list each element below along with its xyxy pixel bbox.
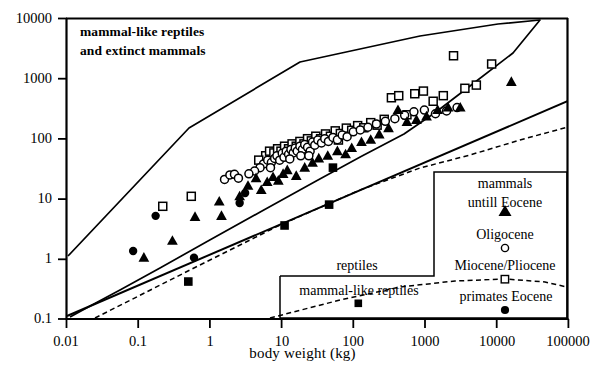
data-point-open-square bbox=[461, 84, 469, 92]
data-point-open-circle bbox=[391, 115, 399, 123]
data-point-filled-square bbox=[184, 277, 193, 286]
data-point-filled-triangle bbox=[190, 211, 201, 221]
data-point-filled-triangle bbox=[313, 153, 324, 163]
data-point-open-circle bbox=[286, 155, 294, 163]
data-point-filled-circle bbox=[190, 253, 198, 261]
legend-label-mammals: mammals bbox=[440, 176, 570, 192]
data-point-filled-triangle bbox=[356, 136, 367, 146]
data-point-filled-triangle bbox=[346, 142, 357, 152]
data-point-filled-triangle bbox=[374, 129, 385, 139]
data-point-open-square bbox=[439, 92, 447, 100]
data-point-filled-triangle bbox=[216, 210, 227, 220]
legend-label-miocene-pliocene: Miocene/Pliocene bbox=[425, 258, 585, 274]
data-point-open-circle bbox=[245, 170, 253, 178]
y-ticklabel-1: 1 bbox=[0, 250, 52, 267]
legend-label-until-eocene: untill Eocene bbox=[430, 195, 580, 211]
data-point-open-square bbox=[419, 87, 427, 95]
y-ticklabel-0.1: 0.1 bbox=[0, 310, 52, 327]
data-point-filled-circle bbox=[129, 247, 137, 255]
data-point-filled-circle bbox=[235, 199, 243, 207]
data-point-open-square bbox=[395, 92, 403, 100]
data-point-filled-circle bbox=[241, 189, 249, 197]
data-point-open-circle bbox=[266, 164, 274, 172]
data-point-open-circle bbox=[356, 126, 364, 134]
legend-label-primates-eocene: primates Eocene bbox=[428, 289, 584, 305]
y-ticklabel-100: 100 bbox=[0, 130, 52, 147]
data-point-filled-triangle bbox=[506, 76, 517, 86]
data-point-open-square bbox=[472, 81, 480, 89]
data-point-open-circle bbox=[372, 120, 380, 128]
data-point-filled-square bbox=[329, 163, 338, 172]
data-point-open-circle bbox=[410, 108, 418, 116]
data-point-filled-triangle bbox=[167, 235, 178, 245]
data-point-open-square bbox=[187, 192, 195, 200]
annotation-line-2: and extinct mammals bbox=[80, 43, 206, 59]
annotation-line-1: mammal-like reptiles bbox=[80, 24, 204, 40]
data-point-filled-triangle bbox=[332, 146, 343, 156]
legend-label-reptiles: reptiles bbox=[292, 258, 422, 274]
data-point-open-circle bbox=[297, 152, 305, 160]
data-point-filled-triangle bbox=[139, 252, 150, 262]
data-point-open-circle bbox=[305, 152, 313, 160]
data-point-open-square bbox=[429, 97, 437, 105]
y-ticklabel-1000: 1000 bbox=[0, 70, 52, 87]
data-point-filled-triangle bbox=[214, 196, 225, 206]
data-point-filled-square bbox=[280, 221, 289, 230]
y-ticklabel-10000: 10000 bbox=[0, 10, 52, 27]
data-point-open-circle bbox=[234, 174, 242, 182]
data-point-open-square bbox=[488, 60, 496, 68]
x-axis-title: body weight (kg) bbox=[0, 345, 605, 362]
data-point-filled-circle bbox=[151, 212, 159, 220]
data-point-filled-triangle bbox=[365, 134, 376, 144]
data-point-filled-square bbox=[325, 200, 334, 209]
legend-label-oligocene: Oligocene bbox=[432, 227, 578, 243]
data-point-open-square bbox=[450, 52, 458, 60]
brain-body-weight-scatter-figure: 10000 1000 100 10 1 0.1 0.01 0.1 1 10 10… bbox=[0, 0, 605, 372]
data-point-open-square bbox=[159, 202, 167, 210]
data-point-filled-triangle bbox=[299, 162, 310, 172]
legend-label-mammal-like-reptiles: mammal-like reptiles bbox=[274, 283, 444, 299]
data-point-open-square bbox=[411, 90, 419, 98]
data-point-filled-triangle bbox=[393, 104, 404, 114]
data-point-open-circle bbox=[364, 123, 372, 131]
data-point-filled-triangle bbox=[322, 150, 333, 160]
y-ticklabel-10: 10 bbox=[0, 190, 52, 207]
data-point-filled-triangle bbox=[291, 170, 302, 180]
